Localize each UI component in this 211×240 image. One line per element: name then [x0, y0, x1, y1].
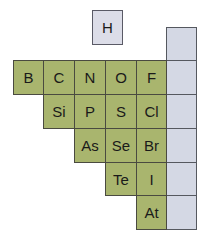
element-as: As	[74, 128, 106, 163]
element-symbol: B	[23, 69, 33, 86]
element-n: N	[74, 60, 106, 95]
element-h: H	[92, 10, 123, 45]
element-p: P	[74, 94, 106, 129]
noble-gas-cell-2	[166, 60, 197, 95]
noble-gas-cell-5	[166, 162, 197, 196]
element-si: Si	[43, 94, 75, 129]
element-s: S	[105, 94, 137, 129]
element-symbol: H	[102, 19, 113, 36]
element-symbol: As	[81, 137, 99, 154]
element-symbol: I	[149, 171, 153, 188]
element-se: Se	[105, 128, 137, 163]
element-symbol: F	[147, 69, 156, 86]
element-symbol: Si	[52, 103, 65, 120]
element-symbol: N	[85, 69, 96, 86]
element-te: Te	[105, 162, 137, 196]
element-c: C	[43, 60, 75, 95]
noble-gas-cell-3	[166, 94, 197, 129]
element-at: At	[136, 195, 167, 230]
element-symbol: Br	[144, 137, 159, 154]
element-symbol: O	[115, 69, 127, 86]
element-cl: Cl	[136, 94, 167, 129]
element-symbol: S	[116, 103, 126, 120]
element-f: F	[136, 60, 167, 95]
element-i: I	[136, 162, 167, 196]
element-symbol: C	[54, 69, 65, 86]
element-symbol: At	[144, 204, 158, 221]
element-symbol: Se	[112, 137, 130, 154]
element-br: Br	[136, 128, 167, 163]
noble-gas-cell-1	[166, 27, 197, 61]
element-symbol: Te	[113, 171, 129, 188]
element-b: B	[13, 60, 44, 95]
element-symbol: Cl	[144, 103, 158, 120]
element-symbol: P	[85, 103, 95, 120]
noble-gas-cell-4	[166, 128, 197, 163]
noble-gas-cell-6	[166, 195, 197, 230]
element-o: O	[105, 60, 137, 95]
